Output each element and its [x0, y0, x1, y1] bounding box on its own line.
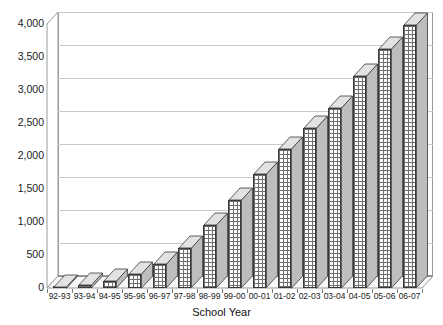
x-axis-labels: 92-9393-9494-9595-9696-9797-9898-9999-00…	[0, 0, 443, 325]
x-tick-label-06-07: 06-07	[392, 292, 428, 301]
x-axis-title: School Year	[0, 306, 443, 318]
chart-root: 05001,0001,5002,0002,5003,0003,5004,000 …	[0, 0, 443, 325]
x-tick-origin	[47, 289, 48, 293]
